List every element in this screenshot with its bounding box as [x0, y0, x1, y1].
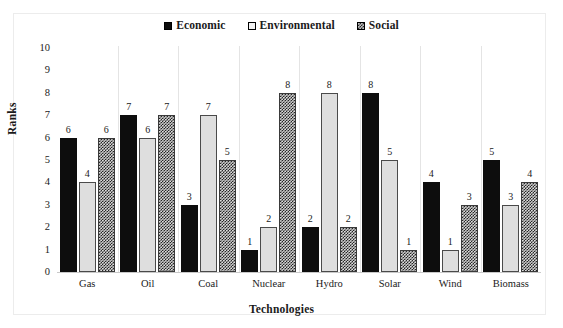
bar-value-label: 2 [308, 214, 313, 224]
bar-slot: 3 [181, 48, 198, 272]
y-axis-tick-label: 3 [45, 200, 50, 211]
bar-group: 128Nuclear [239, 48, 300, 272]
bar-group-bars: 282 [303, 48, 356, 272]
bar-slot: 5 [381, 48, 398, 272]
bar-value-label: 8 [285, 80, 290, 90]
bar-environmental[interactable] [79, 182, 96, 272]
bar-social[interactable] [158, 115, 175, 272]
bar-slot: 1 [241, 48, 258, 272]
bar-value-label: 7 [164, 102, 169, 112]
bar-economic[interactable] [181, 205, 198, 272]
x-axis-category-label: Hydro [299, 279, 360, 290]
bar-group: 534Biomass [481, 48, 542, 272]
bar-value-label: 4 [85, 169, 90, 179]
plot-area: 109876543210 646Gas767Oil375Coal128Nucle… [57, 48, 541, 272]
bar-value-label: 6 [104, 125, 109, 135]
legend-label-economic: Economic [176, 20, 225, 32]
bar-slot: 8 [279, 48, 296, 272]
bar-group: 375Coal [178, 48, 239, 272]
y-axis-tick-label: 5 [45, 155, 50, 166]
x-axis-category-label: Biomass [481, 279, 542, 290]
bar-economic[interactable] [362, 93, 379, 272]
y-axis-tick-label: 0 [45, 267, 50, 278]
bar-slot: 1 [400, 48, 417, 272]
bar-group: 282Hydro [299, 48, 360, 272]
bar-environmental[interactable] [502, 205, 519, 272]
bar-environmental[interactable] [381, 160, 398, 272]
bar-value-label: 1 [406, 237, 411, 247]
bar-environmental[interactable] [200, 115, 217, 272]
bar-group-bars: 851 [363, 48, 416, 272]
bar-value-label: 3 [508, 192, 513, 202]
bar-group-bars: 128 [242, 48, 295, 272]
bar-group: 413Wind [420, 48, 481, 272]
bar-slot: 2 [302, 48, 319, 272]
bar-group-bars: 375 [182, 48, 235, 272]
bar-social[interactable] [340, 227, 357, 272]
bar-group-bars: 534 [484, 48, 537, 272]
bar-social[interactable] [279, 93, 296, 272]
bar-value-label: 7 [126, 102, 131, 112]
y-axis-tick-label: 2 [45, 222, 50, 233]
bar-economic[interactable] [302, 227, 319, 272]
bar-slot: 8 [321, 48, 338, 272]
bar-slot: 3 [502, 48, 519, 272]
x-axis-category-label: Coal [178, 279, 239, 290]
bar-slot: 5 [483, 48, 500, 272]
bar-slot: 6 [98, 48, 115, 272]
legend-swatch-economic-icon [164, 22, 172, 30]
x-axis-category-label: Oil [118, 279, 179, 290]
bar-social[interactable] [219, 160, 236, 272]
legend-item-economic: Economic [164, 20, 225, 32]
bar-slot: 8 [362, 48, 379, 272]
y-axis-tick-label: 9 [45, 65, 50, 76]
y-axis-title: Ranks [6, 102, 18, 135]
bar-group: 767Oil [118, 48, 179, 272]
bar-slot: 4 [79, 48, 96, 272]
y-axis-tick-label: 1 [45, 244, 50, 255]
bar-slot: 3 [461, 48, 478, 272]
bar-value-label: 8 [327, 80, 332, 90]
bar-value-label: 4 [429, 169, 434, 179]
legend-label-social: Social [369, 20, 399, 32]
bar-slot: 4 [423, 48, 440, 272]
bar-economic[interactable] [483, 160, 500, 272]
bar-social[interactable] [98, 138, 115, 272]
bar-value-label: 3 [187, 192, 192, 202]
bar-value-label: 5 [489, 147, 494, 157]
bar-economic[interactable] [241, 250, 258, 272]
bar-slot: 7 [120, 48, 137, 272]
bar-social[interactable] [521, 182, 538, 272]
bar-economic[interactable] [60, 138, 77, 272]
bar-slot: 6 [60, 48, 77, 272]
bar-slot: 2 [260, 48, 277, 272]
bar-environmental[interactable] [139, 138, 156, 272]
bar-slot: 5 [219, 48, 236, 272]
bar-slot: 4 [521, 48, 538, 272]
x-axis-line [57, 272, 541, 273]
bar-group: 646Gas [57, 48, 118, 272]
legend-swatch-environmental-icon [248, 22, 256, 30]
bar-economic[interactable] [423, 182, 440, 272]
bar-value-label: 3 [467, 192, 472, 202]
bar-value-label: 5 [225, 147, 230, 157]
bar-economic[interactable] [120, 115, 137, 272]
bar-value-label: 6 [145, 125, 150, 135]
chart-legend: Economic Environmental Social [0, 20, 563, 32]
x-axis-category-label: Solar [360, 279, 421, 290]
bar-group-bars: 767 [121, 48, 174, 272]
x-axis-category-label: Nuclear [239, 279, 300, 290]
bar-slot: 7 [200, 48, 217, 272]
bar-group-bars: 413 [424, 48, 477, 272]
bar-value-label: 2 [266, 214, 271, 224]
bar-value-label: 6 [66, 125, 71, 135]
bar-environmental[interactable] [260, 227, 277, 272]
bar-groups: 646Gas767Oil375Coal128Nuclear282Hydro851… [57, 48, 541, 272]
bar-environmental[interactable] [442, 250, 459, 272]
bar-slot: 7 [158, 48, 175, 272]
bar-value-label: 7 [206, 102, 211, 112]
bar-social[interactable] [400, 250, 417, 272]
bar-environmental[interactable] [321, 93, 338, 272]
bar-value-label: 5 [387, 147, 392, 157]
bar-social[interactable] [461, 205, 478, 272]
